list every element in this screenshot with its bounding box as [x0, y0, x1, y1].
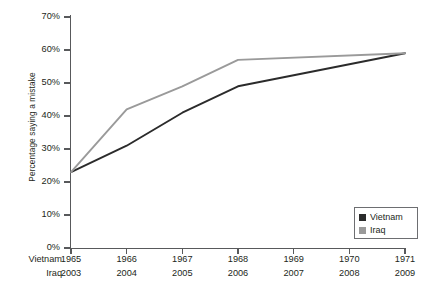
- line-chart: Percentage saying a mistake 0%10%20%30%4…: [0, 0, 431, 300]
- series-line-vietnam: [71, 53, 405, 172]
- legend-item-vietnam: Vietnam: [359, 211, 417, 224]
- legend-item-iraq: Iraq: [359, 224, 417, 237]
- legend-swatch-iraq: [359, 227, 366, 234]
- series-lines: [0, 0, 431, 300]
- legend-label-iraq: Iraq: [370, 226, 386, 235]
- series-line-iraq: [71, 53, 405, 172]
- chart-legend: Vietnam Iraq: [354, 207, 418, 239]
- legend-label-vietnam: Vietnam: [370, 213, 403, 222]
- legend-swatch-vietnam: [359, 214, 366, 221]
